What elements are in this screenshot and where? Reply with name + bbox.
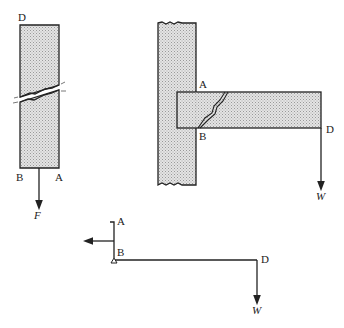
label-d-left: D <box>18 12 26 23</box>
label-d-fbd: D <box>261 254 269 265</box>
label-b-fbd: B <box>117 247 124 258</box>
label-a-joint: A <box>199 79 207 90</box>
label-a-left: A <box>55 172 63 183</box>
t-joint <box>158 22 321 186</box>
label-b-joint: B <box>199 131 206 142</box>
diagram-canvas <box>0 0 344 328</box>
free-body-diagram <box>88 222 257 300</box>
label-a-fbd: A <box>117 216 125 227</box>
label-f: F <box>34 210 41 221</box>
label-d-joint: D <box>326 124 334 135</box>
label-w-joint: W <box>316 191 325 202</box>
label-b-left: B <box>16 172 23 183</box>
label-w-fbd: W <box>252 305 261 316</box>
